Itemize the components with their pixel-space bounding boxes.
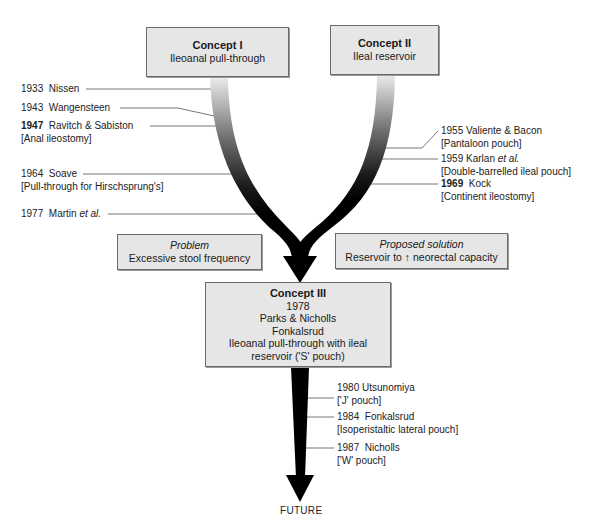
milestone-note: [Pantaloon pouch] bbox=[441, 138, 542, 151]
milestone-1933: 1933 Nissen bbox=[21, 83, 79, 96]
concept3-box: Concept III 1978 Parks & Nicholls Fonkal… bbox=[205, 282, 391, 367]
milestone-name: Nissen bbox=[49, 83, 80, 94]
milestone-year: 1980 bbox=[337, 382, 359, 393]
milestone-note: [Pull-through for Hirschsprung's] bbox=[21, 181, 164, 194]
milestone-name-italic: et al. bbox=[498, 153, 520, 164]
concept2-subtitle: Ileal reservoir bbox=[353, 50, 416, 63]
concept2-title: Concept II bbox=[358, 37, 411, 50]
concept2-box: Concept II Ileal reservoir bbox=[330, 25, 439, 75]
milestone-1969: 1969 Kock [Continent ileostomy] bbox=[441, 178, 534, 203]
milestone-1977: 1977 Martin et al. bbox=[21, 208, 101, 221]
milestone-note: ['W' pouch] bbox=[337, 455, 400, 468]
concept3-desc1: Ileoanal pull-through with ileal bbox=[229, 337, 367, 350]
milestone-name: Karlan bbox=[466, 153, 495, 164]
concept1-band bbox=[210, 77, 307, 258]
milestone-name-italic: et al. bbox=[79, 208, 101, 219]
milestone-1955: 1955 Valiente & Bacon [Pantaloon pouch] bbox=[441, 125, 542, 150]
concept2-band bbox=[293, 75, 395, 258]
milestone-note: [Isoperistaltic lateral pouch] bbox=[337, 424, 458, 437]
problem-box: Problem Excessive stool frequency bbox=[117, 234, 262, 270]
milestone-1964: 1964 Soave [Pull-through for Hirschsprun… bbox=[21, 168, 164, 193]
milestone-name: Ravitch & Sabiston bbox=[49, 120, 134, 131]
concept1-title: Concept I bbox=[192, 39, 242, 52]
milestone-year: 1955 bbox=[441, 125, 463, 136]
concept3-authors2: Fonkalsrud bbox=[272, 325, 324, 338]
future-arrowhead bbox=[286, 475, 314, 502]
milestone-name: Wangensteen bbox=[49, 102, 110, 113]
milestone-year: 1947 bbox=[21, 120, 43, 131]
milestone-name: Nicholls bbox=[365, 442, 400, 453]
milestone-year: 1943 bbox=[21, 102, 43, 113]
concept1-subtitle: Ileoanal pull-through bbox=[170, 52, 265, 65]
milestone-year: 1969 bbox=[441, 178, 463, 189]
milestone-1959: 1959 Karlan et al. [Double-barrelled ile… bbox=[441, 153, 571, 178]
milestone-year: 1933 bbox=[21, 83, 43, 94]
milestone-1980: 1980 Utsunomiya ['J' pouch] bbox=[337, 382, 415, 407]
milestone-note: ['J' pouch] bbox=[337, 395, 415, 408]
concept3-title: Concept III bbox=[270, 287, 326, 300]
milestone-name: Utsunomiya bbox=[362, 382, 415, 393]
concept3-authors1: Parks & Nicholls bbox=[260, 312, 336, 325]
milestone-name: Fonkalsrud bbox=[365, 411, 414, 422]
milestone-note: [Anal ileostomy] bbox=[21, 133, 133, 146]
merge-arrowhead bbox=[283, 256, 317, 283]
milestone-year: 1987 bbox=[337, 442, 359, 453]
future-label: FUTURE bbox=[280, 505, 322, 516]
concept3-desc2: reservoir ('S' pouch) bbox=[251, 350, 344, 363]
solution-text: Reservoir to ↑ neorectal capacity bbox=[345, 251, 497, 264]
milestone-1947: 1947 Ravitch & Sabiston [Anal ileostomy] bbox=[21, 120, 133, 145]
milestone-year: 1977 bbox=[21, 208, 43, 219]
concept1-box: Concept I Ileoanal pull-through bbox=[146, 27, 289, 77]
milestone-note: [Continent ileostomy] bbox=[441, 191, 534, 204]
milestone-1984: 1984 Fonkalsrud [Isoperistaltic lateral … bbox=[337, 411, 458, 436]
future-arrow-shaft bbox=[291, 367, 309, 478]
milestone-year: 1959 bbox=[441, 153, 463, 164]
milestone-name: Kock bbox=[469, 178, 491, 189]
milestone-name: Martin bbox=[49, 208, 77, 219]
milestone-name: Soave bbox=[49, 168, 77, 179]
future-leader-lines bbox=[304, 398, 334, 448]
milestone-note: [Double-barrelled ileal pouch] bbox=[441, 166, 571, 179]
milestone-name: Valiente & Bacon bbox=[466, 125, 542, 136]
milestone-year: 1964 bbox=[21, 168, 43, 179]
flow-diagram-graphics bbox=[0, 0, 602, 526]
milestone-1943: 1943 Wangensteen bbox=[21, 102, 110, 115]
solution-heading: Proposed solution bbox=[379, 238, 463, 251]
milestone-1987: 1987 Nicholls ['W' pouch] bbox=[337, 442, 400, 467]
concept3-year: 1978 bbox=[286, 300, 309, 313]
milestone-year: 1984 bbox=[337, 411, 359, 422]
problem-heading: Problem bbox=[170, 239, 209, 252]
solution-box: Proposed solution Reservoir to ↑ neorect… bbox=[335, 233, 508, 269]
problem-text: Excessive stool frequency bbox=[129, 252, 250, 265]
